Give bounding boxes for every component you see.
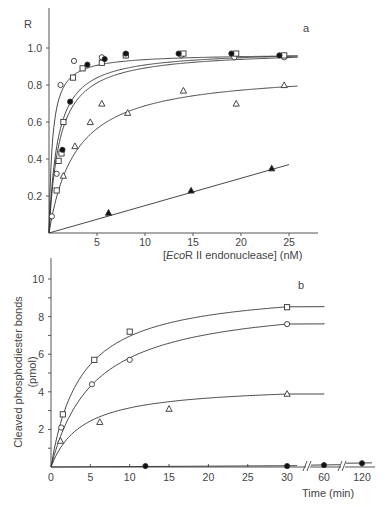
panel-b-open-triangle-marker-icon xyxy=(97,419,103,425)
panel-a-filled-circle-marker-icon xyxy=(277,53,282,58)
x-tick-label: 15 xyxy=(163,471,175,483)
x-tick-label: 10 xyxy=(139,236,151,248)
y-tick-label: 8 xyxy=(38,311,44,323)
panel-a-y-label: R xyxy=(24,18,32,30)
x-tick-label: 25 xyxy=(283,236,295,248)
y-tick-label: 2 xyxy=(38,423,44,435)
y-tick-label: 4 xyxy=(38,386,44,398)
panel-a-open-triangle-marker-icon xyxy=(281,82,287,88)
panel-a-open-triangle-marker-icon xyxy=(87,119,93,125)
y-tick-label: 0.2 xyxy=(27,190,42,202)
panel-a-filled-circle-marker-icon xyxy=(60,147,65,152)
panel-b-fit-curves xyxy=(51,306,372,467)
panel-a-filled-circle-marker-icon xyxy=(123,51,128,56)
panel-b-open-circle-marker-icon xyxy=(285,322,290,327)
panel-b-filled-circle-marker-icon xyxy=(285,463,290,468)
panel-b-open-triangle-marker-icon xyxy=(166,406,172,412)
panel-b-letter: b xyxy=(298,279,304,291)
chart-figure: 0.20.40.60.81.0 510152025 R a [EcoR II e… xyxy=(0,0,388,507)
panel-a-open-triangle-marker-icon xyxy=(99,100,105,106)
panel-a-filled-circle-marker-icon xyxy=(102,57,107,62)
x-tick-label: 15 xyxy=(187,236,199,248)
panel-a-open-triangle-marker-icon xyxy=(180,87,186,93)
x-tick-label: 0 xyxy=(48,471,54,483)
x-tick-label: 25 xyxy=(242,471,254,483)
panel-b-open-circle-marker-icon xyxy=(59,425,64,430)
panel-b-open-square-marker-icon xyxy=(60,412,65,417)
panel-a: 0.20.40.60.81.0 510152025 R a [EcoR II e… xyxy=(24,8,318,261)
panel-b: 246810 05101520253060120 Cleaved phospho… xyxy=(12,258,375,499)
y-tick-label: 1.0 xyxy=(27,42,42,54)
x-tick-label: 120 xyxy=(353,471,371,483)
panel-a-letter: a xyxy=(303,22,310,34)
panel-a-filled-triangle-marker-icon xyxy=(105,210,111,216)
panel-a-open-square-marker-icon xyxy=(56,158,61,163)
panel-a-open-square-marker-icon xyxy=(80,66,85,71)
panel-b-data-points xyxy=(57,305,364,469)
panel-b-open-triangle-marker-icon xyxy=(284,391,290,397)
panel-b-open-circle-marker-icon xyxy=(127,357,132,362)
panel-a-open-circle-marker-icon xyxy=(71,58,76,63)
x-tick-label: 20 xyxy=(235,236,247,248)
panel-a-x-label: [EcoR II endonuclease] (nM) xyxy=(163,249,302,261)
panel-a-filled-circle-marker-icon xyxy=(68,99,73,104)
panel-b-y-label-unit: (pmol) xyxy=(26,356,38,387)
panel-a-open-square-marker-icon xyxy=(54,188,59,193)
panel-a-filled-circle-marker-icon xyxy=(176,51,181,56)
x-tick-label: 10 xyxy=(124,471,136,483)
x-tick-label: 60 xyxy=(318,471,330,483)
panel-b-open-circle-marker-icon xyxy=(89,382,94,387)
panel-a-open-circle-marker-icon xyxy=(54,171,59,176)
y-tick-label: 0.6 xyxy=(27,116,42,128)
panel-a-open-triangle-marker-icon xyxy=(60,173,66,179)
panel-a-fit-curves xyxy=(49,56,298,233)
panel-a-data-points xyxy=(49,51,287,219)
panel-a-open-circle-marker-icon xyxy=(58,82,63,87)
x-tick-label: 5 xyxy=(94,236,100,248)
y-tick-label: 0.4 xyxy=(27,153,42,165)
panel-a-filled-circle-marker-icon xyxy=(85,62,90,67)
panel-b-filled-circle-marker-icon xyxy=(143,463,148,468)
x-tick-label: 20 xyxy=(203,471,215,483)
panel-b-filled-circle-marker-icon xyxy=(321,463,326,468)
panel-a-filled-triangle-marker-icon xyxy=(188,187,194,193)
panel-a-y-ticks: 0.20.40.60.81.0 xyxy=(27,42,49,202)
panel-b-open-square-marker-icon xyxy=(285,305,290,310)
panel-a-open-circle-marker-icon xyxy=(49,214,54,219)
panel-a-x-ticks: 510152025 xyxy=(94,233,295,248)
y-tick-label: 6 xyxy=(38,348,44,360)
panel-b-filled-circle-marker-icon xyxy=(359,461,364,466)
panel-a-filled-triangle-marker-icon xyxy=(269,165,275,171)
y-tick-label: 0.8 xyxy=(27,79,42,91)
x-tick-label: 5 xyxy=(87,471,93,483)
panel-a-filled-circle-marker-icon xyxy=(229,51,234,56)
panel-b-y-label: Cleaved phosphodiester bonds xyxy=(12,296,24,448)
panel-a-open-square-marker-icon xyxy=(70,75,75,80)
panel-a-open-triangle-marker-icon xyxy=(233,100,239,106)
panel-b-open-square-marker-icon xyxy=(92,357,97,362)
panel-b-open-triangle-marker-icon xyxy=(57,438,63,444)
y-tick-label: 10 xyxy=(32,273,44,285)
panel-b-x-label: Time (min) xyxy=(302,487,354,499)
x-tick-label: 30 xyxy=(281,471,293,483)
panel-a-open-triangle-marker-icon xyxy=(72,143,78,149)
panel-a-open-square-marker-icon xyxy=(61,119,66,124)
panel-b-open-square-marker-icon xyxy=(127,329,132,334)
